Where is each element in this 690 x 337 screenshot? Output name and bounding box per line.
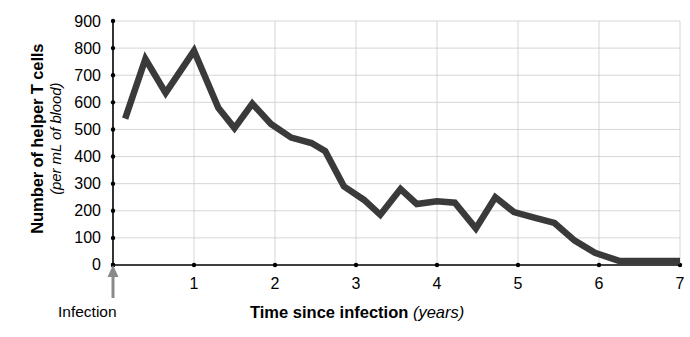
y-tick-mark	[111, 154, 115, 158]
x-tick-mark	[435, 263, 439, 267]
x-tick-mark	[354, 263, 358, 267]
x-tick-mark	[597, 263, 601, 267]
y-tick-mark	[111, 73, 115, 77]
data-series-line	[125, 51, 680, 261]
x-tick-mark	[516, 263, 520, 267]
y-tick-mark	[111, 236, 115, 240]
y-tick-mark	[111, 181, 115, 185]
infection-arrow-icon	[108, 265, 119, 298]
x-tick-mark	[273, 263, 277, 267]
y-tick-mark	[111, 46, 115, 50]
plot-area	[0, 0, 690, 337]
y-tick-mark	[111, 100, 115, 104]
y-tick-mark	[111, 209, 115, 213]
y-tick-mark	[111, 127, 115, 131]
x-tick-mark	[192, 263, 196, 267]
chart-container: Number of helper T cells (per mL of bloo…	[0, 0, 690, 337]
y-tick-mark	[111, 19, 115, 23]
